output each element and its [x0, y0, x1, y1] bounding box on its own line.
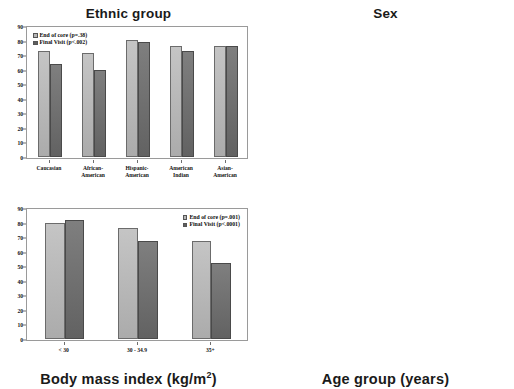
- x-tick-mark: [93, 160, 94, 163]
- bar-ethnic-group-4-0: [214, 46, 226, 157]
- legend-swatch-icon: [183, 223, 188, 228]
- legend-swatch-icon: [33, 33, 38, 38]
- bar-ethnic-group-0-0: [38, 51, 50, 157]
- bar-ethnic-group-3-0: [170, 46, 182, 157]
- panel-title-ethnic-group: Ethnic group: [0, 6, 257, 21]
- x-tick-mark: [49, 160, 50, 163]
- bar-ethnic-group-1-1: [94, 70, 106, 157]
- panel-title-body-mass-index: Body mass index (kg/m2): [0, 370, 257, 387]
- panel-title-sex: Sex: [257, 6, 514, 21]
- panel-ethnic-group: Ethnic group 0102030405060708090 End of …: [0, 0, 257, 195]
- bar-body-mass-index-1-1: [138, 241, 158, 339]
- bar-ethnic-group-0-1: [50, 64, 62, 157]
- plot-area-body-mass-index: End of core (p=.001)Final Visit (p<.0001…: [26, 208, 248, 341]
- legend-item: Final Visit (p<.0001): [183, 221, 240, 228]
- legend-ethnic-group: End of core (p=.38)Final Visit (p<.002): [33, 32, 87, 47]
- legend-label: Final Visit (p<.002): [40, 39, 88, 46]
- bar-body-mass-index-2-0: [192, 241, 212, 339]
- panel-sex: Sex 0102030405060708090 End of core (p=.…: [257, 0, 514, 195]
- legend-label: End of core (p=.001): [189, 214, 240, 221]
- bar-ethnic-group-2-1: [138, 42, 150, 157]
- legend-body-mass-index: End of core (p=.001)Final Visit (p<.0001…: [183, 214, 240, 229]
- x-tick-mark: [210, 342, 211, 345]
- bar-body-mass-index-0-1: [65, 220, 85, 339]
- bar-series-ethnic-group: [28, 28, 246, 157]
- x-tick-label: 35+: [165, 347, 257, 354]
- x-tick-mark: [137, 342, 138, 345]
- x-tick-mark: [181, 160, 182, 163]
- legend-item: Final Visit (p<.002): [33, 39, 87, 46]
- legend-label: End of core (p=.38): [40, 32, 88, 39]
- bar-ethnic-group-2-0: [126, 40, 138, 157]
- panel-body-mass-index: 0102030405060708090 End of core (p=.001)…: [0, 195, 257, 389]
- bar-body-mass-index-0-0: [45, 223, 65, 339]
- bmi-title-main: Body mass index (kg/m: [40, 371, 206, 387]
- legend-swatch-icon: [183, 215, 188, 220]
- figure-grid: Ethnic group 0102030405060708090 End of …: [0, 0, 514, 389]
- bar-ethnic-group-1-0: [82, 53, 94, 157]
- legend-label: Final Visit (p<.0001): [189, 221, 240, 228]
- legend-item: End of core (p=.001): [183, 214, 240, 221]
- legend-item: End of core (p=.38): [33, 32, 87, 39]
- bar-ethnic-group-4-1: [226, 46, 238, 157]
- panel-age-group: 0102030405060708090 End of core (p=.01)F…: [257, 195, 514, 389]
- legend-swatch-icon: [33, 41, 38, 46]
- panel-title-age-group: Age group (years): [257, 371, 514, 387]
- plot-area-ethnic-group: End of core (p=.38)Final Visit (p<.002): [26, 26, 248, 159]
- bar-ethnic-group-3-1: [182, 51, 194, 157]
- x-tick-mark: [225, 160, 226, 163]
- y-axis-body-mass-index: 0102030405060708090: [2, 208, 26, 341]
- bar-body-mass-index-1-0: [118, 228, 138, 339]
- bar-series-body-mass-index: [28, 210, 246, 339]
- bar-body-mass-index-2-1: [211, 263, 231, 339]
- x-tick-mark: [137, 160, 138, 163]
- y-axis-ethnic-group: 0102030405060708090: [2, 26, 26, 159]
- x-tick-mark: [64, 342, 65, 345]
- x-tick-label: Asian- American: [198, 165, 253, 178]
- bmi-title-tail: ): [212, 371, 217, 387]
